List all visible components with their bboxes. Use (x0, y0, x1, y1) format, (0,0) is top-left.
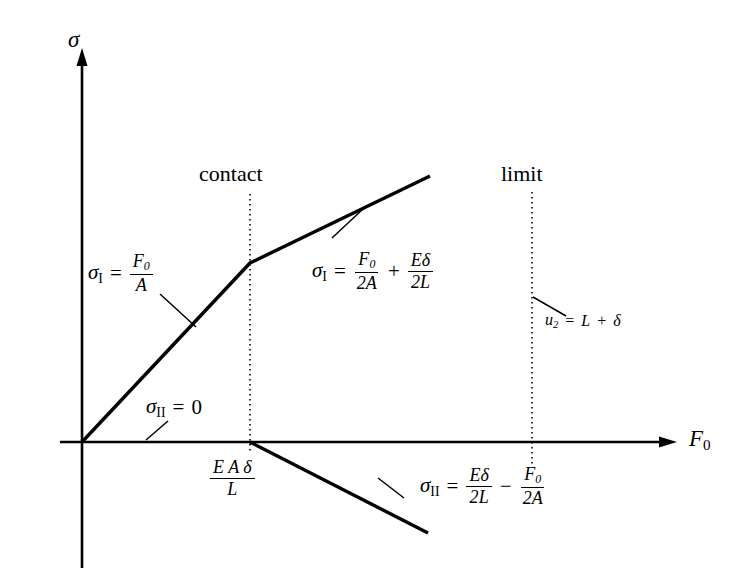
stress-force-diagram: σ F0 contact limit E A δ L σI = F0 A σI … (0, 0, 742, 587)
sigma-I-lower-leader (160, 294, 196, 327)
sigma-I-lower-annotation: σI = F0 A (88, 252, 154, 296)
x-axis-label: F0 (689, 427, 711, 452)
y-axis (77, 48, 88, 568)
sigma-I-curve (82, 176, 430, 442)
sigma-II-zero-annotation: σII = 0 (146, 396, 202, 420)
sigma-II-expr-leader (378, 478, 404, 498)
u2-limit-annotation: u2 = L + δ (545, 312, 621, 331)
contact-tick-label: E A δ L (209, 458, 256, 500)
sigma-I-upper-leader (332, 209, 363, 238)
sigma-II-zero-leader (146, 421, 168, 440)
sigma-II-expr-annotation: σII = Eδ 2L − F0 2A (420, 465, 547, 509)
x-axis (60, 437, 677, 448)
contact-label: contact (199, 163, 263, 185)
sigma-I-upper-annotation: σI = F0 2A + Eδ 2L (312, 250, 434, 294)
limit-label: limit (501, 163, 543, 185)
sigma-II-curve (250, 442, 428, 533)
y-axis-label: σ (68, 28, 79, 51)
